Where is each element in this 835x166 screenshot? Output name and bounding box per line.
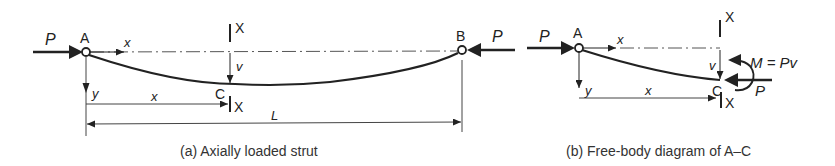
fbd-node-c-label: C <box>712 83 722 99</box>
fbd-load-label-left: P <box>539 28 550 45</box>
y-axis-label: y <box>91 86 100 101</box>
node-b-label: B <box>456 28 465 44</box>
length-label: L <box>271 108 278 123</box>
fbd-y-axis-label: y <box>584 83 593 98</box>
load-label-right: P <box>492 28 503 45</box>
caption-a: (a) Axially loaded strut <box>180 143 318 159</box>
x-dimension-label: x <box>150 89 158 104</box>
pin-node-a <box>82 48 90 56</box>
deflected-strut-curve <box>89 53 458 85</box>
fbd-deflection-label: v <box>709 58 717 73</box>
node-a-label: A <box>80 30 90 46</box>
pin-node-b <box>458 46 466 54</box>
centerline <box>90 51 458 52</box>
fbd-load-arrow-left <box>527 41 575 55</box>
moment-label: M = Pv <box>750 54 799 71</box>
fbd-section-label-bottom: X <box>725 95 735 111</box>
deflection-label: v <box>236 59 244 74</box>
load-label-left: P <box>45 31 56 48</box>
caption-b: (b) Free-body diagram of A–C <box>566 143 751 159</box>
node-c-label: C <box>215 86 225 102</box>
x-axis-label: x <box>123 35 131 50</box>
fbd-node-a-label: A <box>573 25 583 41</box>
section-label-bottom: X <box>234 99 244 115</box>
diagram-a-axially-loaded-strut: P x A B P X X v C y <box>33 20 515 159</box>
fbd-load-label-right: P <box>755 82 765 99</box>
fbd-x-axis-label: x <box>616 32 624 47</box>
length-arrowhead-left <box>87 121 95 128</box>
diagram-b-free-body: P A x X X v C P M = Pv <box>527 9 799 159</box>
fbd-section-label-top: X <box>725 9 735 25</box>
load-arrow-right <box>467 43 515 57</box>
fbd-deflected-curve <box>582 50 720 80</box>
load-arrow-left <box>33 45 83 59</box>
fbd-x-dimension-label: x <box>644 83 652 98</box>
strut-diagram: P x A B P X X v C y <box>0 0 835 166</box>
y-axis-arrowhead <box>83 83 90 93</box>
section-label-top: X <box>235 20 245 36</box>
